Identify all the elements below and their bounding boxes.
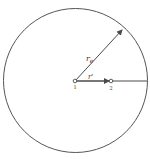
label-point-1: 1 xyxy=(74,84,77,90)
circle-diagram: re r' 1 2 xyxy=(0,0,150,159)
radius-arrow-re xyxy=(75,30,122,81)
label-r-prime: r' xyxy=(88,73,93,81)
point-2-marker xyxy=(109,79,113,83)
label-re: re xyxy=(86,54,94,64)
label-point-2: 2 xyxy=(110,85,113,91)
point-1-marker xyxy=(73,79,77,83)
